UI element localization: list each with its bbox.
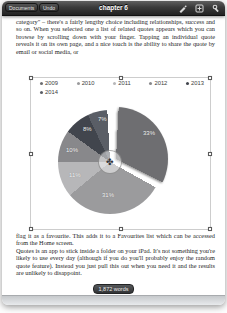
- pie-chart-figure[interactable]: 2009 2010 2011 2012: [30, 77, 211, 230]
- legend-bullet-icon: [77, 82, 80, 85]
- legend-label: 2013: [191, 80, 204, 86]
- legend-item-2010: 2010: [77, 80, 95, 86]
- legend-item-2012: 2012: [149, 80, 167, 86]
- legend-label: 2012: [154, 80, 167, 86]
- paragraph-bottom-1[interactable]: flag it as a favourite. This adds it to …: [16, 232, 215, 247]
- legend-label: 2014: [45, 89, 58, 95]
- selection-handle[interactable]: [119, 227, 123, 231]
- selection-handle[interactable]: [29, 76, 33, 80]
- toolbar-right-icons: [178, 4, 221, 13]
- selection-handle[interactable]: [208, 227, 212, 231]
- legend-label: 2010: [82, 80, 95, 86]
- paragraph-bottom-2[interactable]: Quotes is an app to stick inside a folde…: [16, 247, 215, 277]
- legend-label: 2011: [118, 80, 130, 86]
- slice-label-10: 10%: [66, 147, 78, 153]
- watermark-badge-icon: ✤: [98, 150, 122, 174]
- legend-item-2013: 2013: [186, 80, 204, 86]
- legend-label: 2009: [45, 80, 58, 86]
- legend-bullet-icon: [113, 82, 116, 85]
- paragraph-top[interactable]: category" – there's a fairly lengthy cho…: [16, 18, 215, 55]
- legend-item-2011: 2011: [113, 80, 130, 86]
- document-page[interactable]: category" – there's a fairly lengthy cho…: [2, 15, 225, 297]
- paragraph-bottom[interactable]: flag it as a favourite. This adds it to …: [16, 232, 215, 276]
- app-screen: Documents Undo chapter 6 category" – the…: [0, 0, 227, 313]
- legend-bullet-icon: [186, 82, 189, 85]
- chart-legend-row-2: 2014: [40, 89, 58, 95]
- slice-label-33: 33%: [143, 130, 155, 136]
- legend-bullet-icon: [40, 91, 43, 94]
- selection-handle[interactable]: [208, 152, 212, 156]
- legend-bullet-icon: [40, 82, 43, 85]
- selection-handle[interactable]: [29, 227, 33, 231]
- slice-label-31: 31%: [102, 192, 114, 198]
- selection-handle[interactable]: [29, 152, 33, 156]
- chart-legend: 2009 2010 2011 2012: [40, 80, 204, 86]
- slice-label-11: 11%: [69, 172, 81, 178]
- selection-handle[interactable]: [119, 76, 123, 80]
- slice-label-8: 8%: [83, 126, 92, 132]
- selection-handle[interactable]: [208, 76, 212, 80]
- format-pen-icon[interactable]: [178, 4, 187, 13]
- footer-strip: [2, 295, 225, 305]
- word-count-badge: 1,872 words: [93, 284, 135, 294]
- legend-bullet-icon: [149, 82, 152, 85]
- tools-wrench-icon[interactable]: [212, 4, 221, 13]
- legend-item-2009: 2009: [40, 80, 58, 86]
- insert-media-icon[interactable]: [195, 4, 204, 13]
- legend-item-2014: 2014: [40, 89, 58, 95]
- toolbar: Documents Undo chapter 6: [2, 1, 225, 16]
- slice-label-7: 7%: [98, 116, 107, 122]
- pages-app-window: Documents Undo chapter 6 category" – the…: [2, 1, 225, 305]
